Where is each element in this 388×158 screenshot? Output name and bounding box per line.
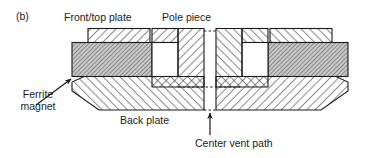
ferrite-magnet-left xyxy=(72,43,152,77)
air-gap-left-void xyxy=(152,43,178,77)
front-top-plate-right-outer xyxy=(270,29,332,43)
back-plate-right-body xyxy=(216,77,348,111)
back-plate-left-body xyxy=(72,77,204,111)
label-front-top-plate: Front/top plate xyxy=(64,11,132,23)
label-center-vent-path: Center vent path xyxy=(195,137,273,149)
air-gap-left xyxy=(152,43,178,77)
front-top-plate-right xyxy=(242,29,332,43)
front-top-plate-left-outer xyxy=(88,29,150,43)
label-ferrite-magnet: Ferrite magnet xyxy=(10,88,66,112)
label-back-plate: Back plate xyxy=(120,114,169,126)
air-gap-right-void xyxy=(242,43,268,77)
label-pole-piece: Pole piece xyxy=(162,11,211,23)
back-plate-right xyxy=(216,77,348,111)
front-top-plate-right-inner xyxy=(242,29,268,43)
front-top-plate-left xyxy=(88,29,178,43)
air-gap-right xyxy=(242,43,268,77)
back-plate-left xyxy=(72,77,204,111)
label-ferrite-magnet-line1: Ferrite xyxy=(23,88,53,100)
ferrite-magnet-left-body xyxy=(72,43,152,77)
ferrite-magnet-right xyxy=(268,43,348,77)
speaker-motor-cross-section-figure xyxy=(0,0,388,158)
ferrite-magnet-right-body xyxy=(268,43,348,77)
panel-letter: (b) xyxy=(16,10,29,22)
front-top-plate-left-inner xyxy=(152,29,178,43)
label-ferrite-magnet-line2: magnet xyxy=(20,100,55,112)
